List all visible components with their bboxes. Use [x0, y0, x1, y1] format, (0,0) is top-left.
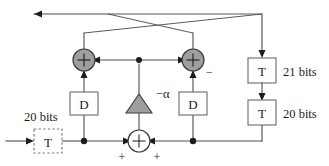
upper-bits-label: 21 bits [283, 65, 317, 79]
lower-bits-label: 20 bits [283, 107, 317, 121]
diagram-text-layer: D D T T T −α 20 bits 21 bits 20 bits − +… [0, 0, 329, 166]
input-bits-label: 20 bits [24, 110, 58, 124]
delay-right-label: D [188, 97, 197, 112]
adder-bottom-sign-right: + [154, 150, 161, 164]
quantizer-input-label: T [44, 135, 52, 150]
gain-label: −α [156, 87, 170, 101]
signal-flow-diagram: D D T T T −α 20 bits 21 bits 20 bits − +… [0, 0, 329, 166]
quantizer-upper-label: T [258, 64, 266, 79]
delay-left-label: D [79, 97, 88, 112]
adder-right-sign: − [206, 65, 213, 79]
adder-bottom-sign-left: + [119, 150, 126, 164]
quantizer-lower-label: T [258, 106, 266, 121]
